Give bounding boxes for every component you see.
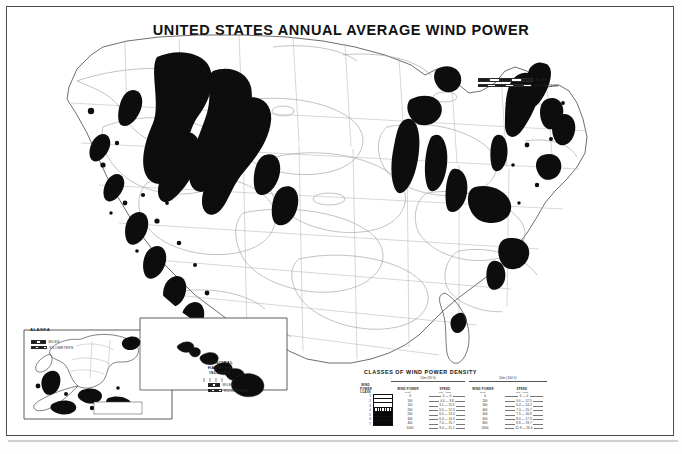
hawaii-inset-label: PRINCIPAL HAWAIIAN ISLANDS bbox=[190, 360, 250, 376]
scalebar-miles-row: MILES bbox=[478, 78, 558, 82]
legend-class-number: 3 bbox=[360, 404, 373, 408]
hawaii-scalebar-miles-row: MILES bbox=[208, 383, 248, 387]
hawaii-scalebar-km-label: KILOMETERS bbox=[224, 389, 248, 393]
legend-row: 10009.4 — 21.1200011.9 — 26.6 bbox=[360, 426, 548, 431]
hawaii-label-line-3: ISLANDS bbox=[190, 370, 250, 375]
legend-class-number: 6 bbox=[360, 417, 373, 421]
scalebar-miles-label: MILES bbox=[536, 78, 547, 82]
alaska-scalebar-miles-label: MILES bbox=[49, 340, 60, 344]
legend-class-number: 5 bbox=[360, 413, 373, 417]
legend-class-swatch bbox=[373, 421, 393, 426]
legend-height-group-50m: 50m (164 ft) bbox=[469, 377, 547, 382]
hawaii-scalebar-km-row: KILOMETERS bbox=[208, 389, 248, 393]
legend-title: CLASSES OF WIND POWER DENSITY bbox=[364, 369, 552, 375]
legend-wind-power-50m: 2000 bbox=[467, 426, 503, 431]
wind-power-density-legend: CLASSES OF WIND POWER DENSITY 10m (33 ft… bbox=[360, 369, 552, 431]
legend-class-number: 1 bbox=[360, 394, 373, 398]
alaska-scalebar-km-row: KILOMETERS bbox=[31, 346, 73, 350]
alaska-scalebar-km-label: KILOMETERS bbox=[50, 346, 74, 350]
legend-wind-power-10m: 1000 bbox=[393, 426, 427, 431]
alaska-inset-label: ALASKA bbox=[30, 327, 50, 332]
alaska-scalebar-miles-row: MILES bbox=[31, 340, 73, 344]
wind-power-map-page: UNITED STATES ANNUAL AVERAGE WIND POWER bbox=[0, 0, 682, 454]
legend-class-number: 2 bbox=[360, 399, 373, 403]
legend-height-group-10m: 10m (33 ft) bbox=[391, 377, 465, 382]
scalebar-kilometers-row: KILOMETERS bbox=[478, 84, 558, 88]
hawaii-scalebar-miles-label: MILES bbox=[223, 383, 234, 387]
alaska-scale-box bbox=[94, 402, 142, 414]
scalebar-kilometers-label: KILOMETERS bbox=[535, 84, 559, 88]
legend-class-number: 4 bbox=[360, 408, 373, 412]
legend-class-number: 7 bbox=[360, 422, 373, 426]
frame-drop-shadow bbox=[8, 440, 678, 442]
legend-speed-10m: 9.4 — 21.1 bbox=[427, 426, 467, 431]
main-map-scalebar: MILES KILOMETERS bbox=[478, 78, 558, 89]
legend-speed-50m: 11.9 — 26.6 bbox=[503, 426, 545, 431]
alaska-scalebar: MILES KILOMETERS bbox=[31, 340, 73, 351]
hawaii-scalebar: MILES KILOMETERS bbox=[208, 383, 248, 394]
legend-row-container: 100 — 000 — 021004.4 — 9.82005.6 — 12.53… bbox=[360, 394, 548, 430]
legend-table: 10m (33 ft) 50m (164 ft) WIND POWER CLAS… bbox=[360, 377, 548, 430]
legend-column-header-row: WIND POWER CLASS WIND POWER W/m² SPEED m… bbox=[360, 381, 548, 394]
